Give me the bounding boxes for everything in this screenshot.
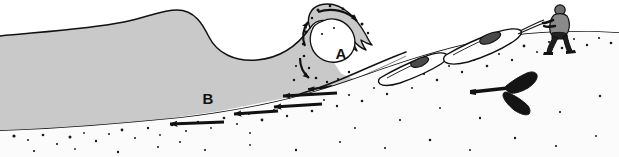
label-b: B <box>203 90 214 107</box>
wave-barrel <box>310 19 355 62</box>
scene-illustration: A B <box>0 0 619 157</box>
undertow-arrow-1 <box>170 122 224 124</box>
label-a: A <box>336 45 347 62</box>
wave-diagram-figure: A B <box>0 0 619 157</box>
